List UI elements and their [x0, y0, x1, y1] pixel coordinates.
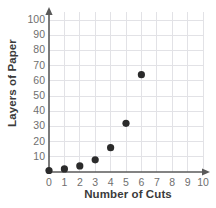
axis-lines	[45, 7, 210, 176]
x-tick-label: 3	[87, 177, 103, 188]
x-tick-label: 5	[118, 177, 134, 188]
data-point	[45, 167, 52, 174]
x-tick-label: 0	[41, 177, 57, 188]
data-point	[61, 165, 68, 172]
data-point	[138, 71, 145, 78]
x-axis-arrowhead	[202, 168, 210, 175]
y-tick-label: 60	[23, 75, 45, 86]
scatter-chart: Layers of Paper 102030405060708090100 01…	[0, 0, 216, 208]
gridlines	[49, 12, 203, 172]
y-tick-label: 20	[23, 136, 45, 147]
y-tick-label: 100	[23, 14, 45, 25]
x-tick-label: 7	[149, 177, 165, 188]
data-point	[107, 144, 114, 151]
y-tick-label: 70	[23, 60, 45, 71]
x-tick-label: 2	[72, 177, 88, 188]
data-point	[92, 156, 99, 163]
x-tick-label: 4	[103, 177, 119, 188]
x-tick-label: 8	[164, 177, 180, 188]
x-tick-label: 9	[180, 177, 196, 188]
x-tick-label: 6	[133, 177, 149, 188]
x-axis-title: Number of Cuts	[40, 188, 216, 200]
x-tick-label: 1	[56, 177, 72, 188]
y-tick-label: 10	[23, 151, 45, 162]
y-tick-label: 80	[23, 44, 45, 55]
y-axis-arrowhead	[45, 7, 52, 15]
y-tick-label: 30	[23, 120, 45, 131]
y-tick-label: 90	[23, 29, 45, 40]
x-tick-label: 10	[195, 177, 211, 188]
data-point	[76, 162, 83, 169]
y-tick-label: 40	[23, 105, 45, 116]
y-tick-label: 50	[23, 90, 45, 101]
data-point	[122, 120, 129, 127]
